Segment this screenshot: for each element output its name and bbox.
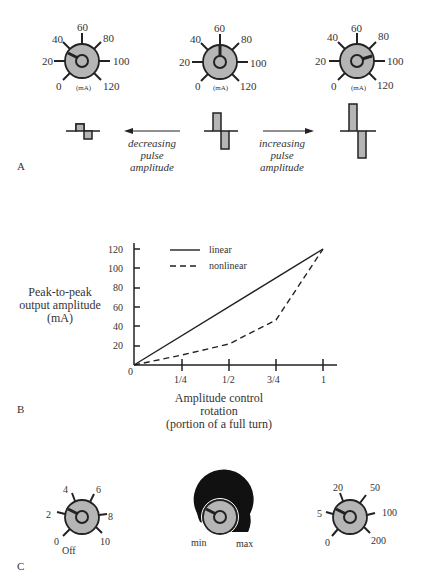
svg-text:20: 20	[315, 55, 327, 67]
svg-text:pulse: pulse	[139, 149, 163, 161]
svg-text:200: 200	[371, 535, 386, 546]
svg-text:80: 80	[241, 33, 253, 45]
svg-text:8: 8	[108, 511, 113, 522]
svg-text:120: 120	[240, 80, 257, 92]
svg-text:0: 0	[128, 366, 133, 377]
panel-label-a: A	[17, 160, 25, 172]
svg-text:20: 20	[333, 482, 343, 493]
svg-text:4: 4	[63, 484, 68, 495]
mid-pulse	[204, 113, 238, 149]
svg-text:1: 1	[321, 374, 326, 385]
svg-text:80: 80	[103, 32, 115, 44]
svg-text:1/2: 1/2	[222, 374, 235, 385]
svg-text:100: 100	[113, 55, 130, 67]
svg-text:40: 40	[52, 33, 64, 45]
svg-text:pulse: pulse	[269, 149, 293, 161]
svg-text:min: min	[191, 537, 207, 548]
legend-nonlinear: nonlinear	[209, 260, 247, 271]
svg-text:(mA): (mA)	[351, 84, 367, 92]
svg-text:max: max	[236, 538, 253, 549]
svg-text:100: 100	[387, 55, 404, 67]
svg-text:6: 6	[96, 484, 101, 495]
svg-text:80: 80	[113, 282, 123, 293]
svg-text:20: 20	[113, 340, 123, 351]
svg-text:100: 100	[382, 507, 397, 518]
svg-text:40: 40	[190, 33, 202, 45]
svg-text:Off: Off	[62, 545, 76, 556]
svg-text:120: 120	[108, 244, 123, 255]
svg-text:decreasing: decreasing	[128, 137, 176, 149]
dial-c1	[57, 493, 107, 536]
svg-text:3/4: 3/4	[267, 374, 280, 385]
svg-text:10: 10	[100, 536, 110, 547]
svg-text:(mA): (mA)	[76, 84, 92, 92]
svg-text:80: 80	[378, 30, 390, 42]
svg-text:20: 20	[179, 56, 191, 68]
svg-text:0: 0	[331, 80, 337, 92]
svg-text:Amplitude control: Amplitude control	[175, 391, 264, 405]
small-pulse	[66, 124, 100, 139]
dial-c2	[194, 469, 254, 535]
svg-text:Peak-to-peak: Peak-to-peak	[28, 285, 91, 299]
svg-text:20: 20	[42, 55, 54, 67]
svg-text:5: 5	[317, 508, 322, 519]
svg-text:(mA): (mA)	[213, 84, 229, 92]
svg-text:(portion of a full turn): (portion of a full turn)	[166, 417, 272, 431]
svg-text:rotation: rotation	[200, 404, 237, 418]
svg-text:output amplitude: output amplitude	[19, 298, 101, 312]
svg-text:120: 120	[103, 80, 120, 92]
svg-text:60: 60	[77, 21, 89, 33]
svg-text:50: 50	[370, 482, 380, 493]
svg-text:(mA): (mA)	[47, 311, 73, 325]
svg-text:amplitude: amplitude	[130, 161, 174, 173]
svg-text:60: 60	[214, 22, 226, 34]
panel-label-b: B	[17, 403, 24, 415]
svg-text:1/4: 1/4	[174, 374, 187, 385]
svg-text:2: 2	[46, 509, 51, 520]
svg-text:120: 120	[377, 79, 394, 91]
svg-text:0: 0	[195, 80, 201, 92]
svg-text:40: 40	[113, 321, 123, 332]
svg-text:100: 100	[108, 263, 123, 274]
svg-text:0: 0	[325, 537, 330, 548]
svg-text:60: 60	[113, 302, 123, 313]
svg-text:0: 0	[54, 536, 59, 547]
svg-text:100: 100	[250, 57, 267, 69]
svg-text:increasing: increasing	[259, 137, 306, 149]
svg-text:40: 40	[327, 31, 339, 43]
svg-text:0: 0	[56, 80, 62, 92]
dial-c3	[326, 493, 375, 536]
large-pulse	[340, 104, 376, 158]
legend-linear: linear	[209, 244, 232, 255]
svg-text:60: 60	[351, 22, 363, 34]
panel-label-c: C	[17, 560, 24, 572]
svg-text:amplitude: amplitude	[260, 161, 304, 173]
figure: 204060801000120 204060801000120 20406080…	[0, 0, 428, 588]
